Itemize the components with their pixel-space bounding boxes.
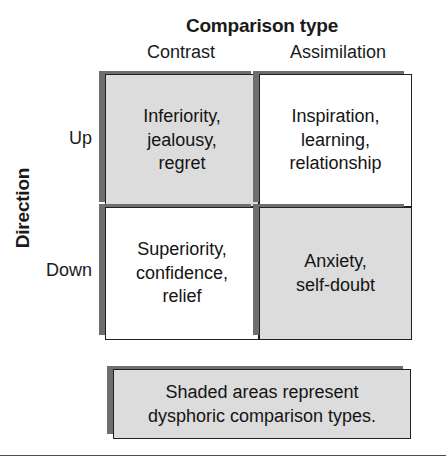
cell-up-contrast-text: Inferiority, jealousy, regret <box>137 105 227 176</box>
cell-up-assimilation: Inspiration, learning, relationship <box>259 74 412 207</box>
row-label-down: Down <box>20 260 92 281</box>
column-header-contrast: Contrast <box>105 42 257 63</box>
quadrant-matrix: Inferiority, jealousy, regret Inspiratio… <box>97 67 419 343</box>
cell-down-assimilation: Anxiety, self-doubt <box>259 207 412 340</box>
cell-down-contrast: Superiority, confidence, relief <box>105 207 259 340</box>
column-header-assimilation: Assimilation <box>258 42 418 63</box>
cell-up-assimilation-text: Inspiration, learning, relationship <box>283 105 387 176</box>
cell-down-contrast-text: Superiority, confidence, relief <box>130 238 234 309</box>
cell-down-assimilation-text: Anxiety, self-doubt <box>290 250 381 298</box>
column-axis-title: Comparison type <box>113 15 411 37</box>
legend-box: Shaded areas represent dysphoric compari… <box>113 369 411 439</box>
comparison-type-matrix-figure: Comparison type Contrast Assimilation Di… <box>0 0 446 467</box>
row-label-up: Up <box>20 128 92 149</box>
bottom-divider <box>0 455 446 456</box>
cell-up-contrast: Inferiority, jealousy, regret <box>105 74 259 207</box>
row-axis-title: Direction <box>12 156 34 260</box>
legend-text: Shaded areas represent dysphoric compari… <box>142 380 382 429</box>
